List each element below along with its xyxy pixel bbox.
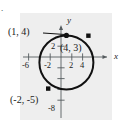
y-axis-arrow (59, 25, 63, 30)
x-axis (23, 53, 107, 60)
plot-graphics (0, 0, 126, 127)
leader-line-point-1-4 (43, 33, 65, 35)
y-tick-label--8: -8 (48, 104, 55, 113)
marker-point-1-4 (64, 33, 69, 38)
y-axis-label: y (67, 16, 71, 25)
x-tick-label--6: -6 (22, 61, 29, 70)
x-axis-arrow (103, 55, 108, 59)
marker-point-4-3 (86, 34, 90, 38)
coordinate-plane-figure: . y x -6 -2 2 (0, 0, 126, 127)
y-axis (57, 25, 64, 118)
point-label-n2-n5: (-2, -5) (10, 95, 38, 105)
y-tick-label-2: 2 (51, 42, 55, 51)
point-label-1-4: (1, 4) (8, 27, 30, 37)
marker-point-n2-n5 (46, 86, 50, 90)
x-tick-label-2: 2 (69, 61, 73, 70)
x-tick-label--2: -2 (44, 61, 51, 70)
point-label-4-3: (4, 3) (60, 43, 82, 53)
x-tick-label-4: 4 (80, 61, 84, 70)
x-axis-label: x (114, 52, 118, 61)
